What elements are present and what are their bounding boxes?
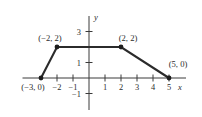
x-ticklabel-4: 4 [151, 83, 156, 92]
x-axis-label: x [177, 82, 182, 92]
vertex-point-a [39, 76, 44, 81]
coordinate-plane: −2 −1 1 2 3 4 5 3 1 −1 y x (−3, 0) (−2, … [0, 0, 202, 117]
vertex-point-b [55, 45, 60, 50]
graph-figure: −2 −1 1 2 3 4 5 3 1 −1 y x (−3, 0) (−2, … [0, 0, 202, 117]
x-ticklabel-1: 1 [103, 83, 107, 92]
function-curve [41, 47, 169, 78]
vertex-point-d [167, 76, 172, 81]
annotation-point-d: (5, 0) [169, 59, 188, 69]
y-ticklabel-1: 1 [77, 59, 81, 68]
annotation-point-c: (2, 2) [119, 33, 138, 43]
y-ticklabel--1: −1 [72, 90, 81, 99]
x-ticklabel-5: 5 [167, 83, 171, 92]
annotation-point-a: (−3, 0) [21, 82, 45, 92]
x-ticklabel-2: 2 [119, 83, 123, 92]
y-axis-label: y [93, 12, 98, 22]
vertex-point-c [119, 45, 124, 50]
y-ticklabel-3: 3 [77, 28, 81, 37]
annotation-point-b: (−2, 2) [38, 33, 62, 43]
x-ticklabel-3: 3 [135, 83, 139, 92]
x-ticklabel--2: −2 [53, 83, 62, 92]
